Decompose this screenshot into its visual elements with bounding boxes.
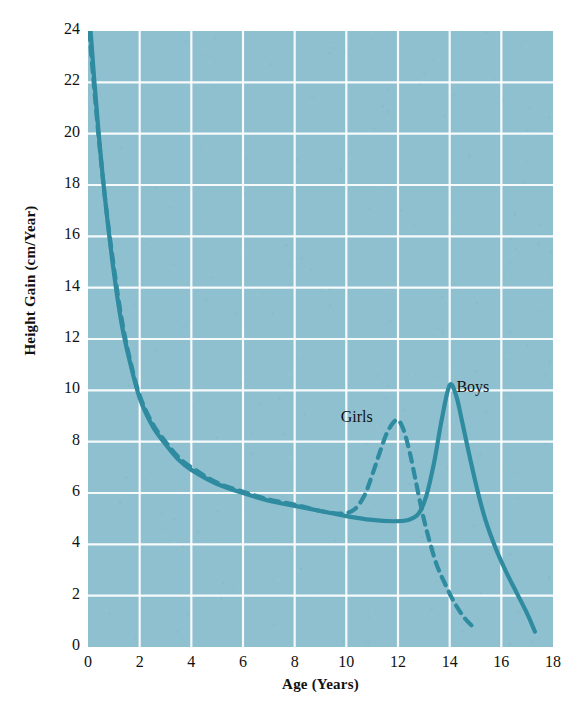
x-tick-10: 10: [326, 653, 366, 671]
y-tick-22: 22: [40, 71, 80, 89]
y-tick-12: 12: [40, 328, 80, 346]
y-tick-2: 2: [40, 585, 80, 603]
y-tick-24: 24: [40, 20, 80, 38]
figure-container: Height Gain (cm/Year) Age (Years) 024681…: [0, 0, 578, 711]
y-tick-4: 4: [40, 533, 80, 551]
series-label-boys: Boys: [456, 378, 489, 396]
figure-caption: [30, 700, 550, 711]
x-tick-6: 6: [223, 653, 263, 671]
y-tick-20: 20: [40, 123, 80, 141]
x-tick-2: 2: [120, 653, 160, 671]
y-tick-6: 6: [40, 482, 80, 500]
x-tick-4: 4: [171, 653, 211, 671]
y-tick-8: 8: [40, 431, 80, 449]
y-tick-10: 10: [40, 379, 80, 397]
chart-plot-area: [0, 0, 578, 711]
series-label-girls: Girls: [341, 408, 373, 426]
y-tick-14: 14: [40, 277, 80, 295]
x-tick-14: 14: [430, 653, 470, 671]
y-tick-0: 0: [40, 636, 80, 654]
x-tick-12: 12: [378, 653, 418, 671]
x-tick-16: 16: [481, 653, 521, 671]
y-tick-16: 16: [40, 225, 80, 243]
y-tick-18: 18: [40, 174, 80, 192]
x-tick-18: 18: [533, 653, 573, 671]
x-tick-8: 8: [275, 653, 315, 671]
x-tick-0: 0: [68, 653, 108, 671]
